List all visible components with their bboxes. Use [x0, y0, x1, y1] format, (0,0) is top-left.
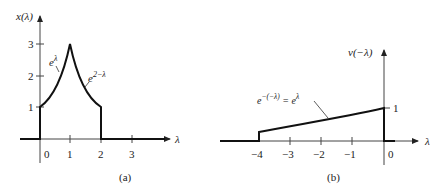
ytick-label-2: 2 — [28, 70, 34, 82]
panel-a: x(λ) λ 1 2 3 0 1 2 3 eλ e2−λ (a) — [15, 10, 180, 184]
xtick-label-1: 1 — [67, 148, 73, 160]
caption-a: (a) — [119, 171, 132, 184]
xtick-label-0: 0 — [44, 148, 50, 160]
xlabel-a: λ — [174, 133, 180, 145]
xtick-label-b-0: 0 — [388, 148, 394, 160]
signal-curve-b — [220, 108, 395, 141]
annotation-e-2-minus-lambda: e2−λ — [88, 70, 106, 84]
leader-ea — [56, 66, 59, 72]
xtick-label-2: 2 — [98, 148, 104, 160]
xtick-label-3: 3 — [129, 148, 135, 160]
caption-b: (b) — [327, 171, 340, 184]
annotation-e-neg-neg-lambda: e−(−λ) = eλ — [257, 92, 300, 106]
annotation-e-lambda: eλ — [49, 54, 58, 68]
ytick-label-b-1: 1 — [393, 102, 399, 114]
ytick-label-1: 1 — [28, 101, 34, 113]
panel-b: v(−λ) λ 1 −4 −3 −2 −1 0 e−(−λ) = eλ (b) — [220, 46, 430, 184]
xtick-label-b-m2: −2 — [313, 148, 325, 160]
xtick-label-b-m3: −3 — [282, 148, 294, 160]
figure: x(λ) λ 1 2 3 0 1 2 3 eλ e2−λ (a) v(−λ) λ — [0, 0, 447, 193]
ytick-label-3: 3 — [28, 38, 34, 50]
signal-curve-a — [20, 44, 165, 139]
xtick-label-b-m1: −1 — [344, 148, 356, 160]
xlabel-b: λ — [424, 135, 430, 147]
ylabel-a: x(λ) — [15, 10, 33, 23]
ylabel-b: v(−λ) — [348, 46, 373, 59]
xtick-label-b-m4: −4 — [251, 148, 263, 160]
leader-b — [314, 101, 328, 118]
